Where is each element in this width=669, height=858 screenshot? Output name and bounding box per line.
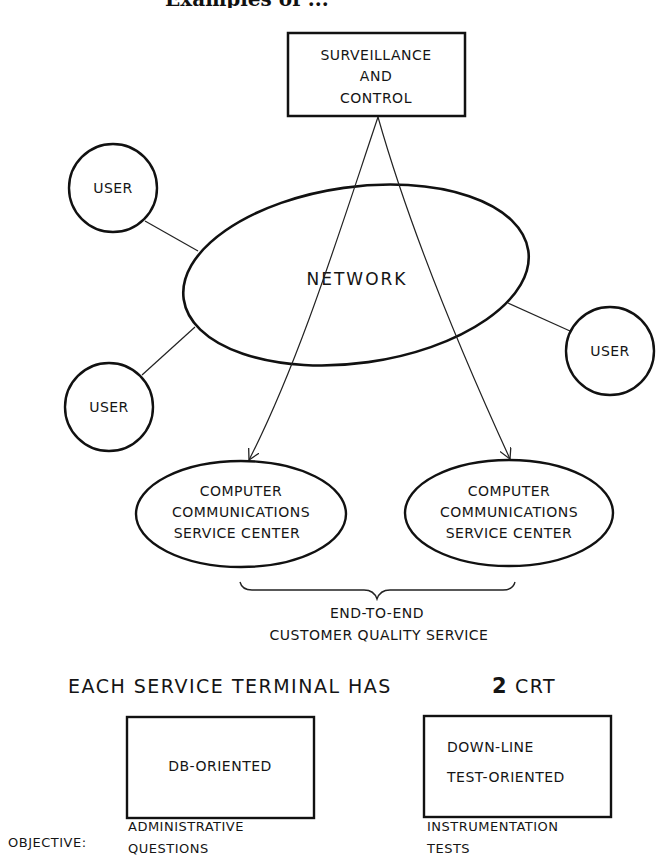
crt-label-line-2: TEST-ORIENTED — [446, 769, 565, 785]
objective-db-line-2: QUESTIONS — [128, 841, 209, 856]
crt-box-db-oriented: DB-ORIENTED — [127, 717, 314, 818]
crt-label: CRT — [515, 675, 556, 697]
end-to-end-label: END-TO-END — [330, 605, 424, 621]
customer-quality-label: CUSTOMER QUALITY SERVICE — [270, 627, 489, 643]
surveillance-label: SURVEILLANCE — [320, 47, 431, 63]
crt-label-line-1: DOWN-LINE — [447, 739, 534, 755]
service-center-line-1: COMPUTER — [200, 483, 283, 499]
service-center-line-1: COMPUTER — [468, 483, 551, 499]
service-center-left: COMPUTER COMMUNICATIONS SERVICE CENTER — [136, 461, 346, 567]
user-label: USER — [93, 180, 133, 196]
network-label: NETWORK — [307, 269, 408, 289]
connector-line — [145, 221, 198, 251]
service-center-line-2: COMMUNICATIONS — [172, 504, 310, 520]
user-label: USER — [590, 343, 630, 359]
crt-box-test-oriented: DOWN-LINE TEST-ORIENTED — [424, 716, 611, 817]
brace-icon — [240, 582, 515, 599]
surveillance-control-box: SURVEILLANCE AND CONTROL — [288, 33, 465, 116]
connector-line — [508, 303, 570, 331]
network-node: NETWORK — [171, 164, 540, 387]
user-node-upper-left: USER — [69, 144, 198, 251]
crt-label: DB-ORIENTED — [168, 758, 272, 774]
crt-count: 2 — [492, 674, 507, 698]
user-node-right: USER — [508, 303, 654, 395]
objective-label: OBJECTIVE: — [8, 835, 87, 850]
user-label: USER — [89, 399, 129, 415]
service-center-right: COMPUTER COMMUNICATIONS SERVICE CENTER — [405, 460, 613, 566]
heading-text: EACH SERVICE TERMINAL HAS — [68, 675, 392, 697]
terminal-heading: EACH SERVICE TERMINAL HAS 2 CRT — [68, 674, 556, 698]
and-label: AND — [360, 68, 392, 84]
user-node-lower-left: USER — [65, 327, 195, 451]
objective-test-line-2: TESTS — [426, 841, 470, 856]
connector-line — [142, 327, 195, 375]
objective-db-line-1: ADMINISTRATIVE — [128, 819, 244, 834]
cut-off-title: Examples of ... — [165, 0, 329, 11]
svg-text:Examples of ...: Examples of ... — [165, 0, 329, 11]
objective-test-line-1: INSTRUMENTATION — [427, 819, 559, 834]
service-center-line-2: COMMUNICATIONS — [440, 504, 578, 520]
control-label: CONTROL — [340, 90, 412, 106]
service-center-line-3: SERVICE CENTER — [174, 525, 301, 541]
service-center-line-3: SERVICE CENTER — [446, 525, 573, 541]
diagram-canvas: Examples of ... SURVEILLANCE AND CONTROL… — [0, 0, 669, 858]
